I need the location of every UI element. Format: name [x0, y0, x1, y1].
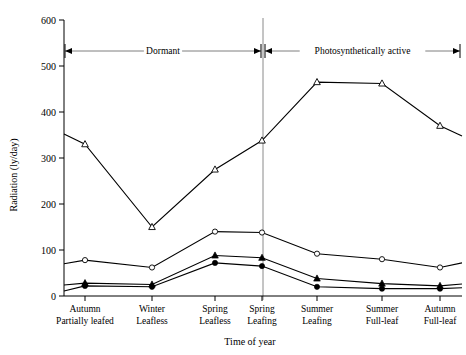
data-point-marker [149, 284, 154, 289]
data-point-marker [437, 265, 442, 270]
y-tick-label: 400 [41, 107, 56, 118]
x-category-label: Leafless [199, 316, 231, 326]
chart-canvas: 0100200300400500600 DormantPhotosyntheti… [0, 0, 466, 355]
data-point-marker [259, 264, 264, 269]
x-category-label: Spring [249, 304, 275, 314]
x-category-label: Partially leafed [56, 316, 114, 326]
x-category-label: Leafing [247, 316, 277, 326]
x-category-label: Summer [366, 304, 399, 314]
data-point-marker [259, 230, 264, 235]
y-axis-title: Radiation (ly/day) [8, 138, 20, 211]
data-point-marker [314, 284, 319, 289]
x-category-label: Summer [301, 304, 334, 314]
x-axis-title: Time of year [224, 336, 276, 347]
y-tick-label: 600 [41, 15, 56, 26]
y-tick-label: 200 [41, 199, 56, 210]
x-category-label: Autumn [69, 304, 100, 314]
data-point-marker [379, 286, 384, 291]
y-tick-label: 0 [51, 291, 56, 302]
data-point-marker [212, 260, 217, 265]
x-category-label: Leafing [302, 316, 332, 326]
radiation-time-of-year-chart: 0100200300400500600 DormantPhotosyntheti… [0, 0, 466, 355]
data-point-marker [82, 258, 87, 263]
y-tick-label: 300 [41, 153, 56, 164]
y-tick-label: 500 [41, 61, 56, 72]
data-point-marker [437, 286, 442, 291]
x-category-label: Full-leaf [366, 316, 400, 326]
data-point-marker [212, 229, 217, 234]
data-point-marker [149, 265, 154, 270]
x-category-label: Winter [139, 304, 166, 314]
data-point-marker [314, 251, 319, 256]
x-category-label: Autumn [424, 304, 455, 314]
period-annotation-label: Photosynthetically active [315, 46, 411, 56]
data-point-marker [379, 257, 384, 262]
period-annotation-label: Dormant [146, 46, 180, 56]
x-category-label: Leafless [136, 316, 168, 326]
data-point-marker [82, 283, 87, 288]
x-category-label: Full-leaf [424, 316, 458, 326]
y-tick-label: 100 [41, 245, 56, 256]
x-category-label: Spring [202, 304, 228, 314]
